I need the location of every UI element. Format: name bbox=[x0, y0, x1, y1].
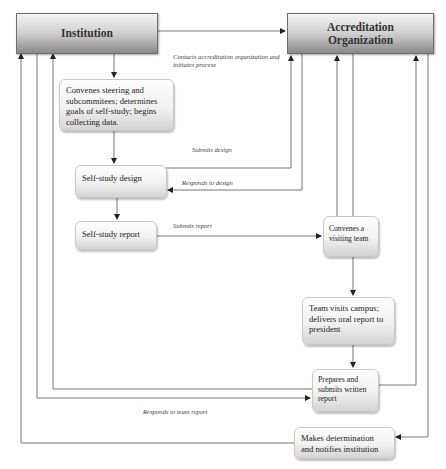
edge-label-submits-report: Submits report bbox=[173, 222, 212, 230]
node-self-study-design: Self-study design bbox=[75, 165, 167, 198]
institution-box: Institution bbox=[16, 13, 158, 54]
edge-label-responds-design: Responds to design bbox=[182, 179, 233, 187]
node-team-visits-campus: Team visits campus; delivers oral report… bbox=[302, 297, 395, 345]
node-prepares-written-report: Prepares and submits written report bbox=[312, 369, 379, 412]
node-self-study-report: Self-study report bbox=[75, 221, 157, 250]
node-makes-determination: Makes determination and notifies institu… bbox=[294, 427, 395, 459]
node-convenes-visiting-team: Convenes a visiting team bbox=[323, 216, 379, 257]
institution-label: Institution bbox=[61, 27, 113, 40]
edge-label-contacts: Contacts accreditation organization and … bbox=[173, 53, 283, 69]
accreditation-process-diagram: Institution Accreditation Organization C… bbox=[0, 0, 446, 469]
accreditation-organization-box: Accreditation Organization bbox=[287, 13, 434, 54]
connector-lines bbox=[0, 0, 446, 469]
edge-label-submits-design: Submits design bbox=[192, 146, 232, 154]
edge-label-responds-team-report: Responds to team report bbox=[143, 408, 207, 416]
node-convenes-steering: Convenes steering and subcommitees; dete… bbox=[59, 79, 174, 131]
accreditation-organization-label: Accreditation Organization bbox=[308, 21, 413, 47]
